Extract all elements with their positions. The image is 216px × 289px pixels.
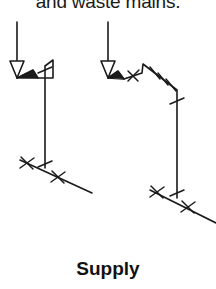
cross-tick [20, 158, 34, 168]
right-riser-group [101, 22, 216, 223]
left-riser-group [10, 22, 92, 193]
caption-bottom-label: Supply [0, 258, 216, 280]
left-branch-diagonal [20, 160, 92, 193]
left-fitting-ticks [20, 67, 65, 183]
piping-diagram-canvas [0, 0, 216, 289]
diagram-page: and waste mains. [0, 0, 216, 289]
right-fitting-ticks [128, 67, 195, 213]
